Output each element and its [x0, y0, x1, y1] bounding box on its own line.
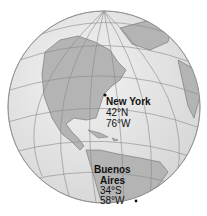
- new-york-label: New York: [106, 97, 151, 107]
- buenos-aires-longitude: 58°W: [100, 196, 125, 206]
- buenos-aires-label-line1: Buenos: [94, 165, 131, 175]
- new-york-latitude: 42°N: [106, 108, 128, 118]
- new-york-longitude: 76°W: [106, 119, 131, 129]
- buenos-aires-marker: [135, 200, 138, 203]
